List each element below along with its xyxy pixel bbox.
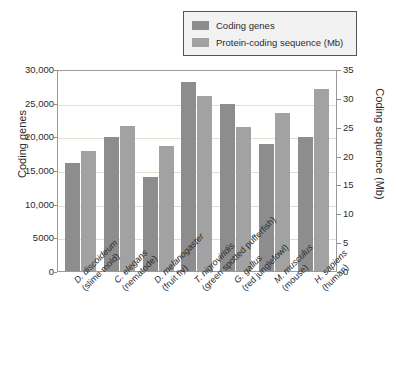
y-axis-right-title: Coding sequence (Mb) bbox=[374, 64, 386, 224]
y-axis-left-tick-label: 20,000 bbox=[25, 132, 54, 142]
y-axis-right-tick-mark bbox=[337, 99, 341, 100]
legend-item-coding-genes: Coding genes bbox=[192, 17, 350, 34]
y-axis-left-tick-mark bbox=[53, 137, 57, 138]
y-axis-right-tick-label: 30 bbox=[343, 94, 354, 104]
bar bbox=[81, 151, 96, 271]
y-axis-left-tick-mark bbox=[53, 238, 57, 239]
legend-item-protein-coding-sequence: Protein-coding sequence (Mb) bbox=[192, 34, 350, 51]
bar bbox=[65, 163, 80, 271]
y-axis-left-tick-label: 5000 bbox=[33, 233, 54, 243]
legend-swatch-coding-genes bbox=[192, 21, 209, 30]
y-axis-right-tick-mark bbox=[337, 157, 341, 158]
y-axis-right-tick-mark bbox=[337, 70, 341, 71]
chart-legend: Coding genes Protein-coding sequence (Mb… bbox=[183, 11, 357, 56]
y-axis-left-tick-mark bbox=[53, 70, 57, 71]
y-axis-left-tick-label: 30,000 bbox=[25, 65, 54, 75]
y-axis-left-tick-mark bbox=[53, 171, 57, 172]
bar bbox=[159, 146, 174, 271]
legend-swatch-protein-coding-sequence bbox=[192, 38, 209, 47]
bar-group bbox=[143, 71, 174, 271]
y-axis-right-tick-mark bbox=[337, 243, 341, 244]
legend-label-coding-genes: Coding genes bbox=[216, 21, 275, 31]
y-axis-right-tick-label: 10 bbox=[343, 209, 354, 219]
y-axis-right-tick-label: 20 bbox=[343, 152, 354, 162]
y-axis-right-tick-mark bbox=[337, 128, 341, 129]
y-axis-right-tick-label: 25 bbox=[343, 123, 354, 133]
y-axis-left-tick-label: 25,000 bbox=[25, 99, 54, 109]
y-axis-left-tick-label: 10,000 bbox=[25, 200, 54, 210]
y-axis-right-tick-mark bbox=[337, 214, 341, 215]
y-axis-left-tick-mark bbox=[53, 205, 57, 206]
legend-label-protein-coding-sequence: Protein-coding sequence (Mb) bbox=[216, 38, 343, 48]
bar-group bbox=[298, 71, 329, 271]
y-axis-right-tick-label: 5 bbox=[343, 238, 348, 248]
y-axis-left-title: Coding genes bbox=[16, 74, 28, 214]
y-axis-left-tick-label: 15,000 bbox=[25, 166, 54, 176]
y-axis-right-tick-mark bbox=[337, 185, 341, 186]
bar-group bbox=[65, 71, 96, 271]
y-axis-right-tick-label: 35 bbox=[343, 65, 354, 75]
y-axis-left-tick-mark bbox=[53, 104, 57, 105]
y-axis-right-tick-label: 15 bbox=[343, 180, 354, 190]
y-axis-left-tick-mark bbox=[53, 272, 57, 273]
bar bbox=[314, 89, 329, 271]
